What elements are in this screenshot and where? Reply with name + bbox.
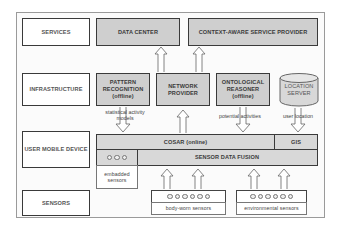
- statistical-models-label: statistical activity models: [101, 109, 149, 122]
- arrow-up-icon: [155, 47, 167, 72]
- arrow-up-icon: [193, 47, 205, 72]
- user-location-label: user location: [283, 113, 313, 119]
- arrow-up-icon: [248, 169, 260, 189]
- arrow-up-icon: [278, 169, 290, 189]
- arrow-up-icon: [161, 169, 173, 189]
- arrow-down-icon: [291, 108, 305, 132]
- arrow-up-icon: [192, 169, 204, 189]
- arrow-up-icon: [177, 110, 189, 133]
- statistical-models-line2: models: [101, 115, 149, 121]
- potential-activities-label: potential activities: [219, 113, 261, 119]
- arrow-down-icon: [236, 107, 250, 132]
